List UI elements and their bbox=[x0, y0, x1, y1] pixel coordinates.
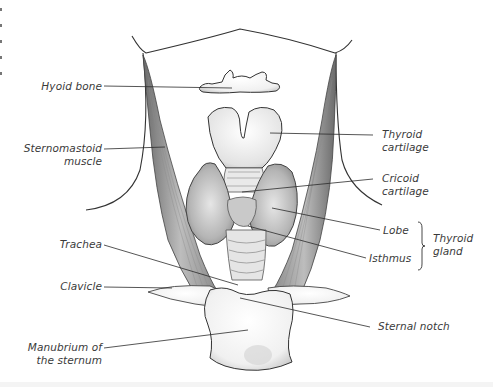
label-text: gland bbox=[433, 245, 473, 258]
bottom-edge bbox=[0, 382, 493, 387]
label-sternal-notch: Sternal notch bbox=[378, 320, 450, 333]
label-text: Clavicle bbox=[20, 280, 102, 293]
hyoid-bone bbox=[199, 70, 279, 93]
label-manubrium: Manubrium of the sternum bbox=[8, 341, 102, 367]
label-text: Manubrium of bbox=[8, 341, 102, 354]
label-text: Thyroid bbox=[382, 128, 429, 141]
anatomy-diagram: Hyoid bone Sternomastoid muscle Thyroid … bbox=[0, 0, 493, 387]
label-thyroid-gland: Thyroid gland bbox=[433, 232, 473, 258]
thyroid-cartilage bbox=[208, 107, 282, 168]
label-text: cartilage bbox=[382, 185, 429, 198]
label-sternomastoid-muscle: Sternomastoid muscle bbox=[8, 142, 102, 168]
trachea bbox=[226, 230, 266, 280]
label-hyoid-bone: Hyoid bone bbox=[20, 80, 102, 93]
label-text: Thyroid bbox=[433, 232, 473, 245]
thyroid-gland-bracket bbox=[418, 222, 425, 270]
jaw-outline bbox=[132, 29, 352, 53]
label-text: Cricoid bbox=[382, 172, 429, 185]
label-lobe: Lobe bbox=[383, 224, 409, 237]
label-text: Sternomastoid bbox=[8, 142, 102, 155]
label-trachea: Trachea bbox=[20, 238, 102, 251]
label-text: Hyoid bone bbox=[20, 80, 102, 93]
label-clavicle: Clavicle bbox=[20, 280, 102, 293]
label-text: cartilage bbox=[382, 141, 429, 154]
label-text: Lobe bbox=[383, 224, 409, 237]
label-text: Isthmus bbox=[369, 252, 411, 265]
label-text: Trachea bbox=[20, 238, 102, 251]
label-thyroid-cartilage: Thyroid cartilage bbox=[382, 128, 429, 154]
label-isthmus: Isthmus bbox=[369, 252, 411, 265]
label-cricoid-cartilage: Cricoid cartilage bbox=[382, 172, 429, 198]
neck-outline-left bbox=[86, 53, 146, 210]
label-text: Sternal notch bbox=[378, 320, 450, 333]
label-text: the sternum bbox=[8, 354, 102, 367]
label-text: muscle bbox=[8, 155, 102, 168]
